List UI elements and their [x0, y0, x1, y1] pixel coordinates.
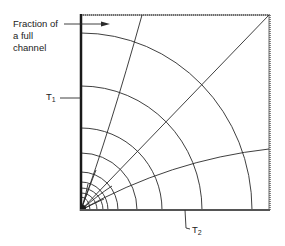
- t2-leader: [185, 210, 190, 229]
- flux-line-diagonal: [81, 15, 269, 210]
- flux-lines: [81, 15, 269, 210]
- flux-line-steep: [81, 15, 142, 210]
- arrow-icon: [101, 22, 110, 27]
- fraction-label: Fraction of a full channel: [13, 18, 58, 54]
- flux-line-shallow: [81, 149, 269, 210]
- t1-label: T1: [46, 91, 56, 106]
- t2-label: T2: [192, 224, 202, 239]
